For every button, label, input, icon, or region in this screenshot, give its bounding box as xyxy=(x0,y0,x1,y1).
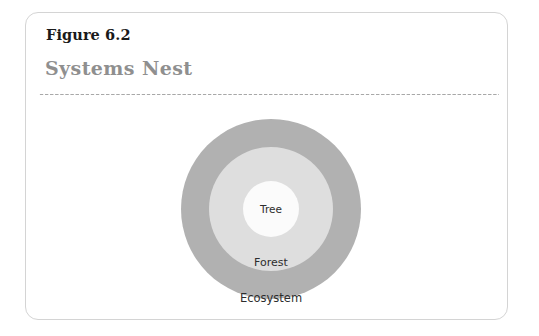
forest-circle xyxy=(209,147,333,271)
figure-card: Figure 6.2 Systems Nest Tree Forest Ecos… xyxy=(25,12,508,320)
dotted-divider xyxy=(39,93,499,96)
tree-label: Tree xyxy=(181,203,361,215)
tree-circle xyxy=(243,181,299,237)
ecosystem-circle xyxy=(181,119,361,299)
forest-label: Forest xyxy=(181,256,361,269)
figure-title: Systems Nest xyxy=(45,57,192,79)
figure-number-label: Figure 6.2 xyxy=(46,26,131,43)
ecosystem-label: Ecosystem xyxy=(181,291,361,305)
